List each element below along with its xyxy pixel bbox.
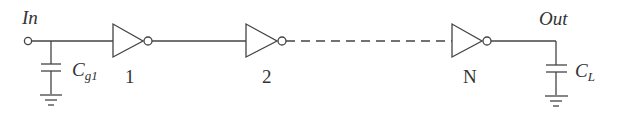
ground-icon: [545, 96, 568, 106]
cg1-symbol: C: [72, 59, 85, 80]
output-label: Out: [539, 9, 568, 28]
cl-label: CL: [575, 61, 595, 83]
stage-2-label: 2: [262, 67, 272, 86]
input-label: In: [22, 8, 38, 27]
inverter-n-icon: [452, 24, 491, 57]
capacitor-cl-icon: [546, 41, 567, 95]
stage-1-label: 1: [125, 67, 135, 86]
capacitor-cg1-icon: [41, 41, 61, 94]
cl-subscript: L: [588, 69, 595, 84]
cg1-label: Cg1: [72, 60, 98, 82]
inverter-1-icon: [113, 24, 152, 57]
inverter-2-icon: [246, 24, 286, 57]
inverter-chain-diagram: In Cg1 1 2 N Out CL: [0, 0, 620, 114]
ground-icon: [40, 95, 62, 105]
stage-n-label: N: [463, 67, 477, 86]
circuit-schematic: [0, 0, 620, 114]
cl-symbol: C: [575, 60, 588, 81]
cg1-subscript: g1: [85, 68, 98, 83]
input-node-icon: [24, 37, 31, 44]
